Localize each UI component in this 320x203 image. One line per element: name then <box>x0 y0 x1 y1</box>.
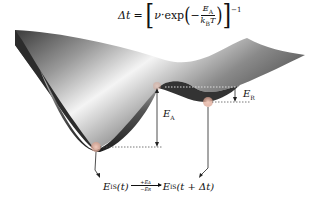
activation-energy-label: EA <box>163 108 175 121</box>
time-step-formula: Δt = [ ν · exp ( − EA kBT ) ] −1 <box>118 4 241 26</box>
fraction: EA kBT <box>201 4 216 26</box>
right-minimum-dot <box>203 97 213 107</box>
exp-function: exp <box>164 9 184 22</box>
transition-arrow: +EA −ER <box>131 179 161 192</box>
energy-landscape-surface <box>0 0 320 203</box>
exponent: −1 <box>231 6 241 14</box>
delta-t: Δt <box>118 9 130 22</box>
left-minimum-dot <box>91 142 101 152</box>
attempt-frequency: ν <box>154 9 161 22</box>
relaxation-energy-label: ER <box>243 88 255 101</box>
state-transition-equation: EIS(t) +EA −ER EIS(t + Δt) <box>103 180 214 193</box>
